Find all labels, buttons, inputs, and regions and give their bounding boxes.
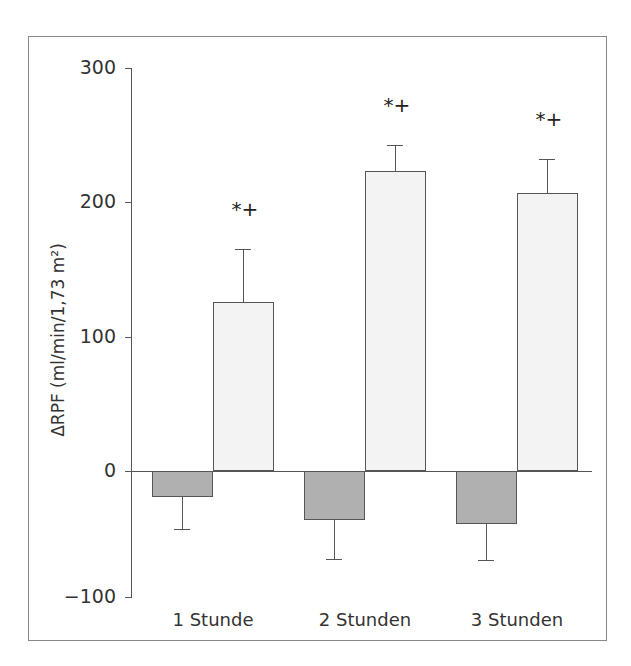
error-bar xyxy=(182,497,183,529)
y-tick xyxy=(125,337,132,338)
x-category-label: 3 Stunden xyxy=(471,609,563,630)
y-axis-line xyxy=(131,68,132,598)
y-tick-label: 0 xyxy=(36,460,116,480)
bar-dark[interactable] xyxy=(456,471,517,524)
error-bar xyxy=(547,159,548,193)
significance-annotation: *+ xyxy=(384,93,411,117)
x-category-label: 2 Stunden xyxy=(319,609,411,630)
y-tick xyxy=(125,597,132,598)
bar-light[interactable] xyxy=(213,302,274,471)
error-bar-cap xyxy=(539,159,555,160)
error-bar-cap xyxy=(387,145,403,146)
error-bar xyxy=(395,145,396,172)
y-tick-label: −100 xyxy=(36,586,116,606)
y-tick-label: 200 xyxy=(36,191,116,211)
bar-dark[interactable] xyxy=(304,471,365,520)
error-bar-cap xyxy=(235,249,251,250)
significance-annotation: *+ xyxy=(232,197,259,221)
significance-annotation: *+ xyxy=(536,107,563,131)
error-bar xyxy=(334,520,335,559)
error-bar-cap xyxy=(326,559,342,560)
y-tick xyxy=(125,471,132,472)
error-bar-cap xyxy=(478,560,494,561)
y-tick-label: 100 xyxy=(36,326,116,346)
y-tick-label: 300 xyxy=(36,57,116,77)
y-tick xyxy=(125,202,132,203)
bar-light[interactable] xyxy=(365,171,426,471)
bar-dark[interactable] xyxy=(152,471,213,497)
error-bar-cap xyxy=(174,529,190,530)
bar-light[interactable] xyxy=(517,193,578,471)
x-category-label: 1 Stunde xyxy=(173,609,254,630)
error-bar xyxy=(486,524,487,561)
y-tick xyxy=(125,68,132,69)
error-bar xyxy=(243,249,244,301)
